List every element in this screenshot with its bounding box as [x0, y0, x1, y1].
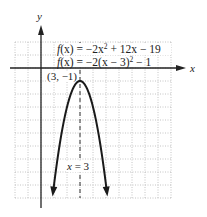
parabola-chart: x y f(x) = −2x2 + 12x − 19 f(x) = −2(x −… — [0, 0, 207, 217]
x-axis-arrow-icon — [176, 65, 186, 71]
y-axis-arrow-icon — [38, 25, 44, 35]
equation-1-label: f(x) = −2x2 + 12x − 19 — [57, 42, 161, 56]
equation-2-label: f(x) = −2(x − 3)2 − 1 — [57, 55, 151, 69]
vertex-label: (3, −1) — [47, 70, 77, 83]
y-axis-label: y — [36, 10, 42, 22]
x-axis-label: x — [189, 62, 195, 74]
axis-of-symmetry-label: x = 3 — [66, 160, 90, 172]
